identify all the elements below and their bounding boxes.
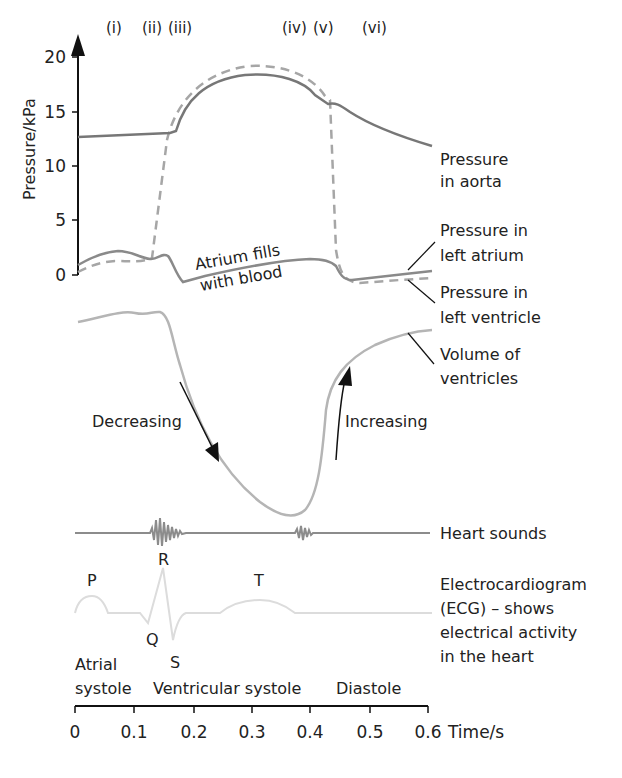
ventricle-label-line1: Pressure in	[440, 283, 528, 302]
aorta-label-line2: in aorta	[440, 172, 502, 191]
decreasing-label: Decreasing	[92, 412, 182, 431]
y-axis: 20 15 10 5 0 Pressure/kPa	[20, 34, 85, 285]
increasing-annotation: Increasing	[336, 366, 428, 460]
phase-names: Atrial systole Ventricular systole Diast…	[75, 655, 401, 698]
heart-sounds-trace	[75, 518, 430, 546]
x-axis-label: Time/s	[447, 722, 504, 742]
x-tick-0.1: 0.1	[120, 722, 147, 742]
y-axis-label: Pressure/kPa	[20, 98, 39, 200]
y-tick-10: 10	[44, 156, 66, 176]
volume-label-line1: Volume of	[440, 345, 520, 364]
y-tick-0: 0	[55, 265, 66, 285]
aorta-pressure-line	[78, 74, 432, 146]
atrium-label-line2: left atrium	[440, 246, 524, 265]
atrium-label-line1: Pressure in	[440, 221, 528, 240]
phase-markers: (i) (ii) (iii) (iv) (v) (vi)	[106, 19, 387, 37]
up-arrow-icon	[338, 366, 352, 386]
x-tick-0.6: 0.6	[414, 722, 441, 742]
atrial-systole-line2: systole	[75, 679, 132, 698]
x-tick-0.5: 0.5	[356, 722, 383, 742]
y-axis-arrow-icon	[71, 34, 85, 56]
ecg-label-line1: Electrocardiogram	[440, 575, 587, 594]
x-tick-0.3: 0.3	[238, 722, 265, 742]
x-axis: 0 0.1 0.2 0.3 0.4 0.5 0.6 Time/s	[70, 706, 505, 742]
ventricle-label-line2: left ventricle	[440, 308, 541, 327]
ecg-q-label: Q	[146, 630, 159, 649]
series-labels: Pressure in aorta Pressure in left atriu…	[408, 150, 587, 666]
phase-v: (v)	[313, 19, 334, 37]
x-tick-0.2: 0.2	[180, 722, 207, 742]
ecg-p-label: P	[87, 571, 97, 590]
increasing-label: Increasing	[345, 412, 428, 431]
phase-iv: (iv)	[282, 19, 307, 37]
ecg-t-label: T	[253, 571, 264, 590]
phase-vi: (vi)	[362, 19, 387, 37]
ecg-label-line4: in the heart	[440, 647, 534, 666]
y-tick-20: 20	[44, 47, 66, 67]
cardiac-cycle-diagram: 20 15 10 5 0 Pressure/kPa (i) (ii) (iii)…	[0, 0, 622, 778]
ecg-r-label: R	[158, 550, 169, 569]
x-tick-0.4: 0.4	[296, 722, 323, 742]
atrial-systole-line1: Atrial	[75, 655, 117, 674]
ecg-wave-labels: P R Q S T	[87, 550, 264, 672]
aorta-label-line1: Pressure	[440, 150, 508, 169]
ecg-label-line3: electrical activity	[440, 623, 577, 642]
volume-label-line2: ventricles	[440, 369, 518, 388]
ecg-s-label: S	[170, 653, 180, 672]
phase-iii: (iii)	[168, 19, 192, 37]
ecg-label-line2: (ECG) – shows	[440, 599, 554, 618]
y-tick-15: 15	[44, 102, 66, 122]
x-tick-0: 0	[70, 722, 81, 742]
decreasing-annotation: Decreasing	[92, 382, 219, 462]
diastole-label: Diastole	[336, 679, 401, 698]
phase-i: (i)	[106, 19, 122, 37]
heart-sounds-label: Heart sounds	[440, 524, 547, 543]
phase-ii: (ii)	[142, 19, 162, 37]
ventricular-systole-label: Ventricular systole	[153, 679, 301, 698]
y-tick-5: 5	[55, 210, 66, 230]
